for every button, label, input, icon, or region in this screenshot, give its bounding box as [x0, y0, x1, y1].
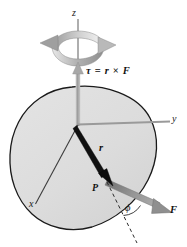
- point-p-label: P: [92, 183, 98, 193]
- spin-arrowhead-right: [98, 37, 116, 54]
- cross-product-symbol: ×: [112, 65, 120, 76]
- torque-equation-label: τ = r × F: [86, 66, 130, 77]
- axis-label-z: z: [72, 8, 76, 18]
- f-vector-label: F: [170, 205, 177, 216]
- vector-F-symbol: F: [123, 65, 130, 76]
- r-vector-label: r: [99, 143, 103, 154]
- vector-r-symbol: r: [105, 65, 109, 76]
- axis-label-y: y: [172, 114, 176, 124]
- spin-arrowhead-left: [40, 35, 58, 51]
- phi-angle-label: ϕ: [125, 203, 130, 214]
- axis-label-x: x: [29, 199, 33, 209]
- diagram-canvas: [0, 0, 187, 247]
- torque-symbol: τ: [86, 65, 91, 76]
- equals-sign: =: [94, 65, 102, 76]
- spin-arrow-back: [52, 31, 100, 50]
- torque-diagram-figure: z y x τ = r × F r P F ϕ: [0, 0, 187, 247]
